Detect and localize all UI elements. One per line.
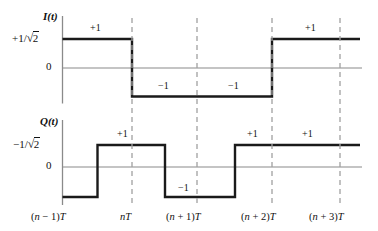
I-symbol-label-1: +1 [90,23,101,33]
I-axis-label: I(t) [43,11,58,22]
Q-axis-label: Q(t) [40,116,58,127]
Q-symbol-label-2: −1 [178,183,189,193]
Q-symbol-label-4: +1 [302,129,313,139]
tick-label-nT: nT [120,212,131,223]
tick-label-n-plus-3-T: (n + 3)T [309,212,344,223]
Q-waveform [63,145,361,197]
Q-symbol-label-3: +1 [247,129,258,139]
waveform-figure: I(t) +1/√2 0 +1 −1 −1 +1 Q(t) −1/√2 0 +1… [0,0,378,231]
I-symbol-label-2: −1 [158,81,169,91]
tick-label-n-plus-2-T: (n + 2)T [241,212,276,223]
plot-Q [63,120,363,205]
plot-I [63,16,363,104]
Q-symbol-label-1: +1 [117,129,128,139]
I-zero-level-label: 0 [46,61,52,72]
I-high-level-label: +1/√2 [12,31,39,45]
Q-high-level-label: −1/√2 [13,137,40,151]
I-symbol-label-4: +1 [305,23,316,33]
tick-label-n-minus-1-T: (n − 1)T [31,212,66,223]
I-symbol-label-3: −1 [228,81,239,91]
tick-label-n-plus-1-T: (n + 1)T [166,212,201,223]
Q-zero-level-label: 0 [46,160,52,171]
